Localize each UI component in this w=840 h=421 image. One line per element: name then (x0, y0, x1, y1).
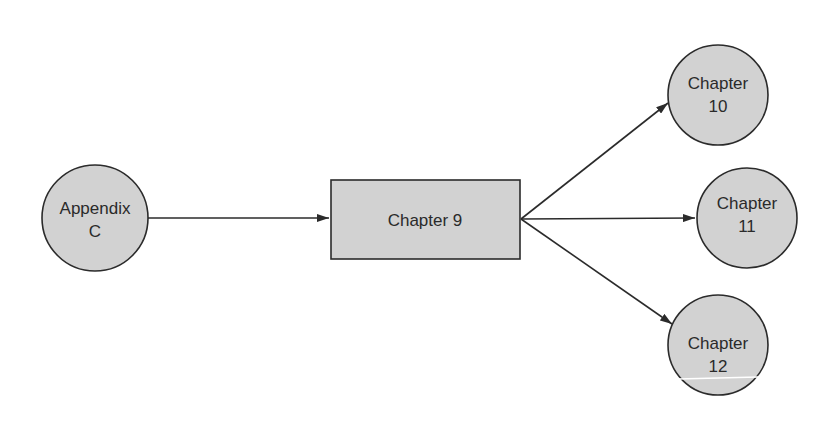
node-chapter-10-line2: 10 (709, 97, 728, 116)
node-chapter-9: Chapter 9 (331, 180, 520, 259)
edge-chapter-9-to-chapter-11 (521, 218, 695, 219)
edge-chapter-9-to-chapter-10 (521, 103, 668, 219)
node-chapter-11-line2: 11 (738, 217, 756, 236)
node-chapter-12: Chapter 12 (668, 295, 768, 395)
node-chapter-10-line1: Chapter (688, 74, 749, 93)
node-chapter-12-line1: Chapter (688, 334, 749, 353)
node-chapter-11: Chapter 11 (697, 168, 797, 268)
node-appendix-c-line1: Appendix (60, 199, 131, 218)
node-chapter-11-line1: Chapter (717, 194, 778, 213)
edge-chapter-9-to-chapter-12 (521, 219, 672, 324)
node-chapter-10: Chapter 10 (668, 45, 768, 145)
node-chapter-12-line2: 12 (709, 357, 728, 376)
flow-diagram: Appendix C Chapter 9 Chapter 10 Chapter … (0, 0, 840, 421)
node-chapter-9-label: Chapter 9 (388, 211, 463, 230)
node-appendix-c-line2: C (89, 222, 101, 241)
node-appendix-c: Appendix C (42, 165, 148, 271)
